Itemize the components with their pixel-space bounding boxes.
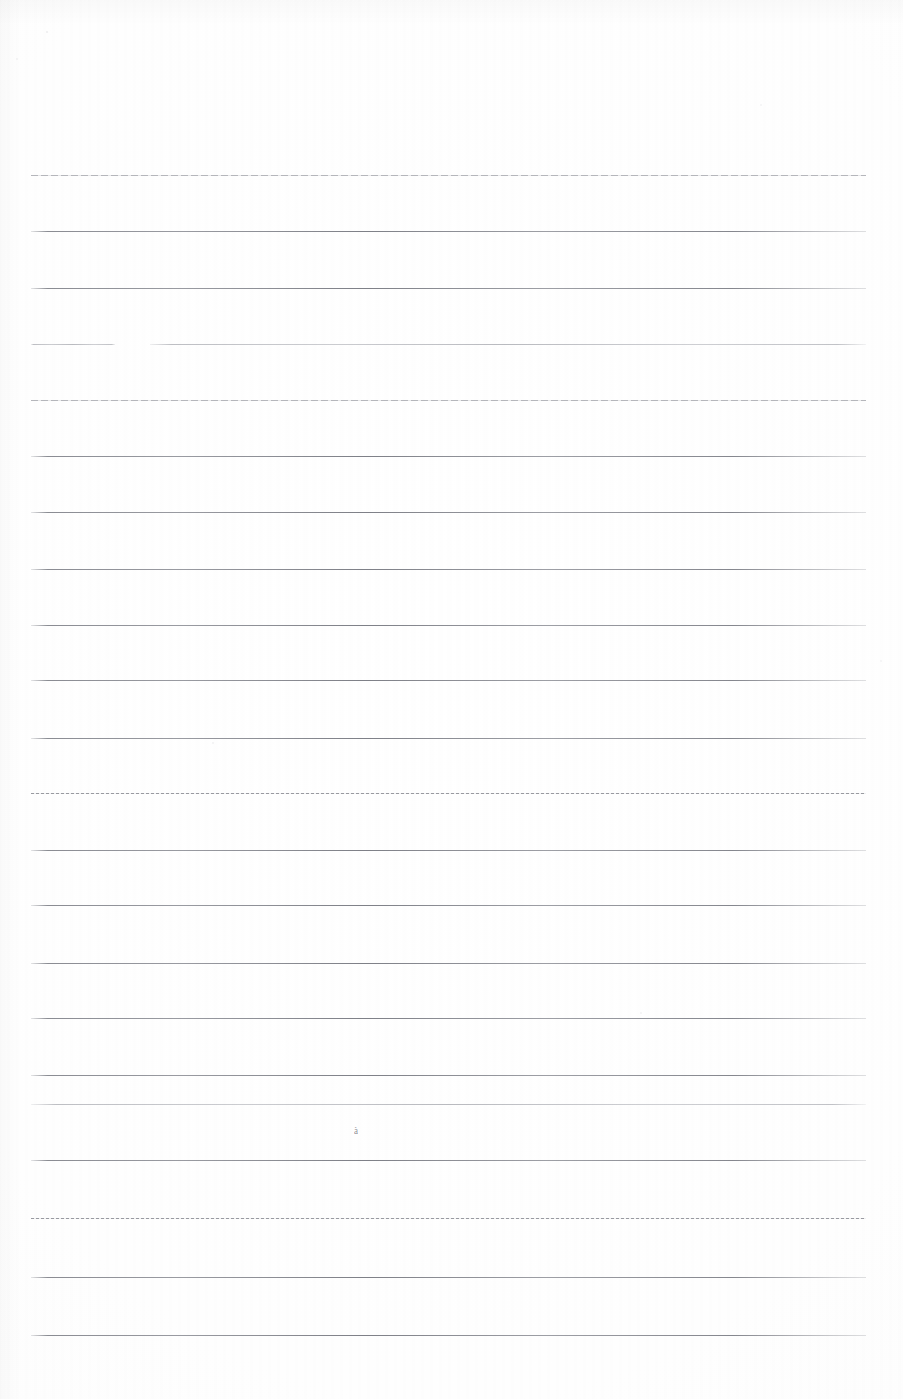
ruled-line bbox=[0, 680, 903, 681]
ruled-line bbox=[0, 1075, 903, 1076]
ruled-line bbox=[0, 400, 903, 401]
ruled-line bbox=[0, 1277, 903, 1278]
ruled-line bbox=[0, 288, 903, 289]
ruled-line-segment bbox=[31, 400, 866, 401]
scan-speck bbox=[16, 58, 18, 60]
ruled-line-segment bbox=[150, 344, 866, 345]
ruled-line bbox=[0, 175, 903, 176]
scanned-page: à bbox=[0, 0, 903, 1399]
page-edge-shadow-left bbox=[0, 0, 20, 1399]
ruled-line-segment bbox=[31, 1218, 866, 1219]
ruled-line-segment bbox=[31, 1075, 866, 1076]
ruled-line-segment bbox=[31, 288, 866, 289]
stray-pencil-mark-glyph: à bbox=[354, 1125, 358, 1136]
ruled-line bbox=[0, 625, 903, 626]
scan-noise-overlay bbox=[0, 0, 903, 1399]
ruled-line-segment bbox=[31, 1335, 866, 1336]
ruled-line-segment bbox=[31, 850, 866, 851]
scan-speck bbox=[212, 742, 214, 744]
ruled-line bbox=[0, 1104, 903, 1105]
ruled-line-segment bbox=[31, 569, 866, 570]
ruled-line bbox=[0, 512, 903, 513]
ruled-line bbox=[0, 793, 903, 794]
ruled-line-segment bbox=[31, 680, 866, 681]
ruled-line-segment bbox=[31, 456, 866, 457]
ruled-line bbox=[0, 456, 903, 457]
ruled-line bbox=[0, 1218, 903, 1219]
ruled-line-segment bbox=[31, 905, 866, 906]
ruled-line-segment bbox=[31, 625, 866, 626]
ruled-line bbox=[0, 344, 903, 345]
ruled-line-segment bbox=[31, 1018, 866, 1019]
ruled-line bbox=[0, 569, 903, 570]
ruled-line bbox=[0, 738, 903, 739]
paper-texture bbox=[0, 0, 903, 1399]
ruled-line-segment bbox=[31, 1277, 866, 1278]
stray-pencil-mark: à bbox=[354, 1126, 358, 1135]
ruled-line-segment bbox=[31, 1160, 866, 1161]
ruled-line bbox=[0, 1160, 903, 1161]
scan-speck bbox=[46, 31, 48, 33]
ruled-line-segment bbox=[31, 1104, 866, 1105]
ruled-line-segment bbox=[31, 344, 115, 345]
ruled-line bbox=[0, 231, 903, 232]
ruled-line-segment bbox=[31, 231, 866, 232]
ruled-line bbox=[0, 905, 903, 906]
ruled-line bbox=[0, 850, 903, 851]
ruled-line-segment bbox=[31, 175, 866, 176]
ruled-line-segment bbox=[31, 793, 866, 794]
scan-speck bbox=[640, 1012, 642, 1014]
ruled-line-segment bbox=[31, 963, 866, 964]
scan-speck bbox=[880, 660, 882, 662]
page-edge-shadow-top bbox=[0, 0, 903, 26]
scan-speck bbox=[760, 104, 762, 106]
ruled-line-segment bbox=[31, 512, 866, 513]
ruled-line bbox=[0, 963, 903, 964]
ruled-line bbox=[0, 1018, 903, 1019]
ruled-line bbox=[0, 1335, 903, 1336]
ruled-line-segment bbox=[31, 738, 866, 739]
